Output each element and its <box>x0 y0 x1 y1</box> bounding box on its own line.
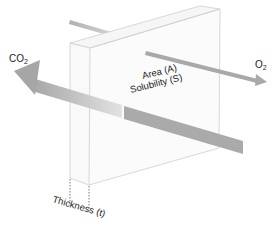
gas-diffusion-diagram: CO2 O2 Area (A) Solubility (S) Thickness… <box>0 0 275 236</box>
slab-side-face <box>70 43 90 185</box>
o2-label: O2 <box>255 59 267 71</box>
co2-label: CO2 <box>9 53 28 65</box>
o2-arrow-head <box>255 74 267 86</box>
membrane-slab <box>70 6 220 185</box>
slab-back-face <box>70 6 220 185</box>
thickness-label: Thickness (t) <box>51 193 106 219</box>
